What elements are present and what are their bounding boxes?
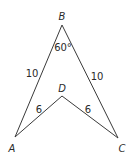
angle-label-b: 60°	[54, 42, 72, 53]
edge-dc	[62, 96, 118, 138]
side-label-bc: 10	[91, 71, 104, 82]
vertex-label-d: D	[58, 83, 66, 94]
vertex-label-a: A	[8, 143, 16, 154]
geometry-diagram: B D A C 60° 10 10 6 6	[0, 0, 131, 154]
edge-ad	[15, 96, 62, 137]
side-label-ad: 6	[36, 104, 42, 115]
vertex-label-c: C	[119, 143, 126, 154]
vertex-label-b: B	[59, 11, 66, 22]
side-label-dc: 6	[85, 104, 91, 115]
side-label-ab: 10	[26, 68, 39, 79]
